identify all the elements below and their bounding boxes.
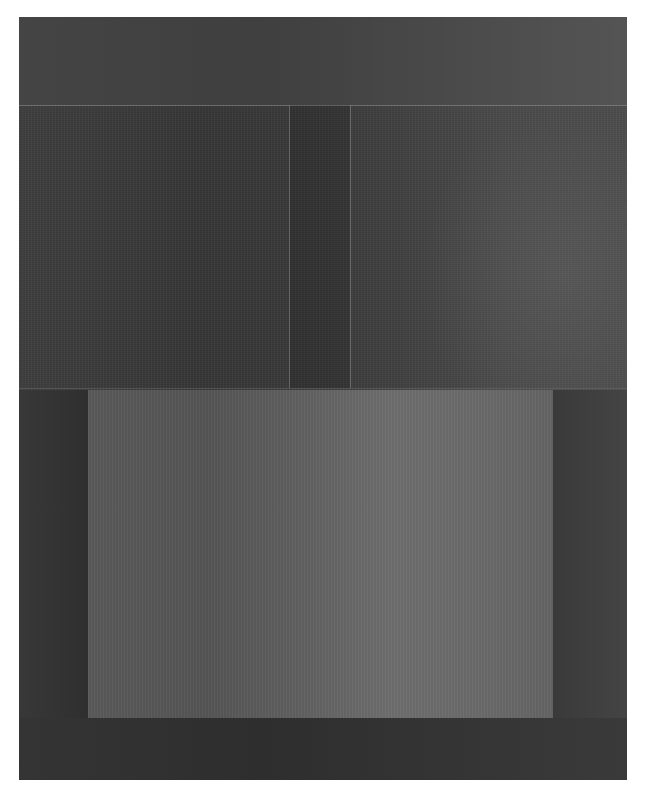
right-light-area bbox=[419, 105, 627, 388]
painting-canvas bbox=[19, 17, 627, 780]
light-gray-rectangle bbox=[88, 390, 553, 718]
dark-vertical-strip bbox=[289, 105, 350, 388]
left-side-band bbox=[19, 390, 88, 718]
bottom-band bbox=[19, 718, 627, 780]
top-band bbox=[19, 17, 627, 105]
vertical-line-right bbox=[350, 105, 351, 388]
vertical-line-left bbox=[289, 105, 290, 388]
horizontal-line-middle bbox=[19, 388, 627, 389]
right-side-band bbox=[553, 390, 627, 718]
